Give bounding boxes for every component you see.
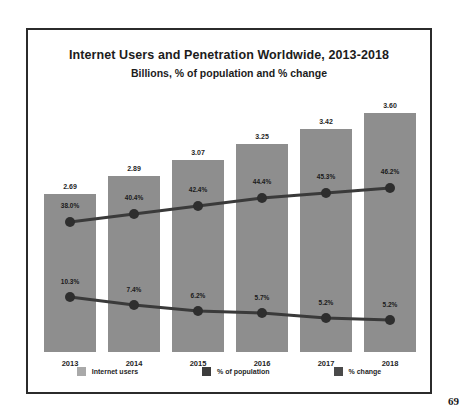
legend-item-internet-users: Internet users <box>77 367 138 376</box>
point-value-label: 40.4% <box>125 194 143 201</box>
page-title: Internet Users and Penetration Worldwide… <box>28 48 430 62</box>
point-marker <box>193 201 203 211</box>
legend-item-percent-of-population: % of population <box>202 367 270 376</box>
point-marker <box>257 193 267 203</box>
point-value-label: 44.4% <box>253 178 271 185</box>
point-value-label: 10.3% <box>61 278 79 285</box>
point-value-label: 38.0% <box>61 202 79 209</box>
legend-swatch-icon <box>334 367 343 376</box>
point-marker <box>65 292 75 302</box>
point-marker <box>385 315 395 325</box>
legend-label: Internet users <box>92 368 138 375</box>
chart-title-block: Internet Users and Penetration Worldwide… <box>28 48 430 79</box>
point-value-label: 6.2% <box>191 292 206 299</box>
legend-swatch-icon <box>202 367 211 376</box>
chart-frame: Internet Users and Penetration Worldwide… <box>26 28 432 394</box>
point-value-label: 45.3% <box>317 173 335 180</box>
legend-swatch-icon <box>77 367 86 376</box>
point-marker <box>321 313 331 323</box>
point-marker <box>385 183 395 193</box>
chart-subtitle: Billions, % of population and % change <box>28 67 430 79</box>
point-value-label: 46.2% <box>381 168 399 175</box>
chart-legend: Internet users % of population % change <box>28 367 430 376</box>
legend-label: % change <box>349 368 382 375</box>
page-number: 69 <box>448 395 459 407</box>
point-marker <box>257 308 267 318</box>
point-value-label: 5.7% <box>255 294 270 301</box>
point-marker <box>65 217 75 227</box>
point-marker <box>129 209 139 219</box>
point-value-label: 5.2% <box>319 299 334 306</box>
point-marker <box>129 300 139 310</box>
plot-area: 2.69 2013 2.89 2014 3.07 2015 3.25 2016 … <box>40 92 420 352</box>
point-marker <box>321 188 331 198</box>
line-series-overlay <box>40 92 420 352</box>
line-percent-of-population <box>70 188 390 222</box>
point-value-label: 5.2% <box>383 301 398 308</box>
legend-item-percent-change: % change <box>334 367 382 376</box>
point-value-label: 7.4% <box>127 286 142 293</box>
legend-label: % of population <box>217 368 270 375</box>
line-percent-change <box>70 297 390 320</box>
point-marker <box>193 306 203 316</box>
point-value-label: 42.4% <box>189 186 207 193</box>
